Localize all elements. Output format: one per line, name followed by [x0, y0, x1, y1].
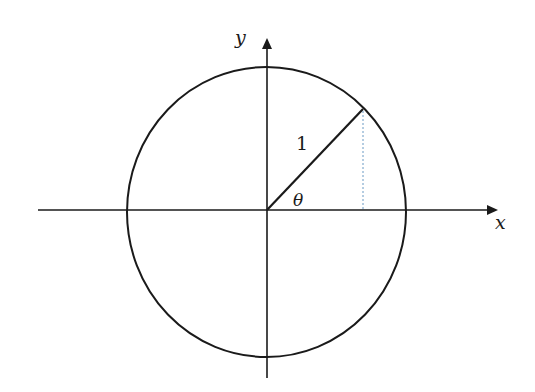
x-axis-label: x	[495, 211, 506, 233]
radius-line	[267, 109, 363, 210]
unit-circle-diagram: y x 1 θ	[0, 0, 535, 392]
y-axis-arrow-icon	[262, 38, 272, 49]
angle-label: θ	[293, 190, 303, 210]
radius-label: 1	[296, 132, 308, 154]
y-axis	[262, 38, 272, 378]
y-axis-label: y	[234, 26, 246, 48]
